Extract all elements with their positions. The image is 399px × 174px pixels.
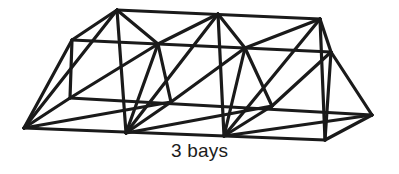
figure-caption: 3 bays: [0, 139, 399, 163]
figure-container: 3 bays: [0, 0, 399, 174]
